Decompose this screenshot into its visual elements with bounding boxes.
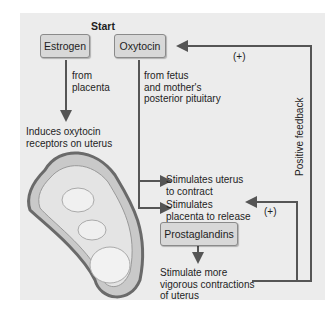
plus-sign-top: (+) [233, 51, 246, 63]
induces-text: Induces oxytocin receptors on uterus [26, 126, 112, 149]
oxytocin-box: Oxytocin [114, 34, 166, 58]
stimulates-placenta-text: Stimulates placenta to release [166, 199, 251, 222]
estrogen-box: Estrogen [40, 34, 90, 58]
prostaglandins-box: Prostaglandins [160, 222, 238, 246]
plus-sign-bottom: (+) [264, 206, 277, 218]
stimulate-more-text: Stimulate more vigorous contractions of … [160, 267, 255, 302]
from-fetus-text: from fetus and mother's posterior pituit… [144, 70, 221, 105]
stimulates-uterus-text: Stimulates uterus to contract [166, 174, 243, 197]
start-label: Start [91, 20, 115, 32]
from-placenta-text: from placenta [72, 70, 110, 93]
fetus-uterus-image [29, 153, 143, 297]
positive-feedback-label: Positive feedback [294, 98, 305, 176]
